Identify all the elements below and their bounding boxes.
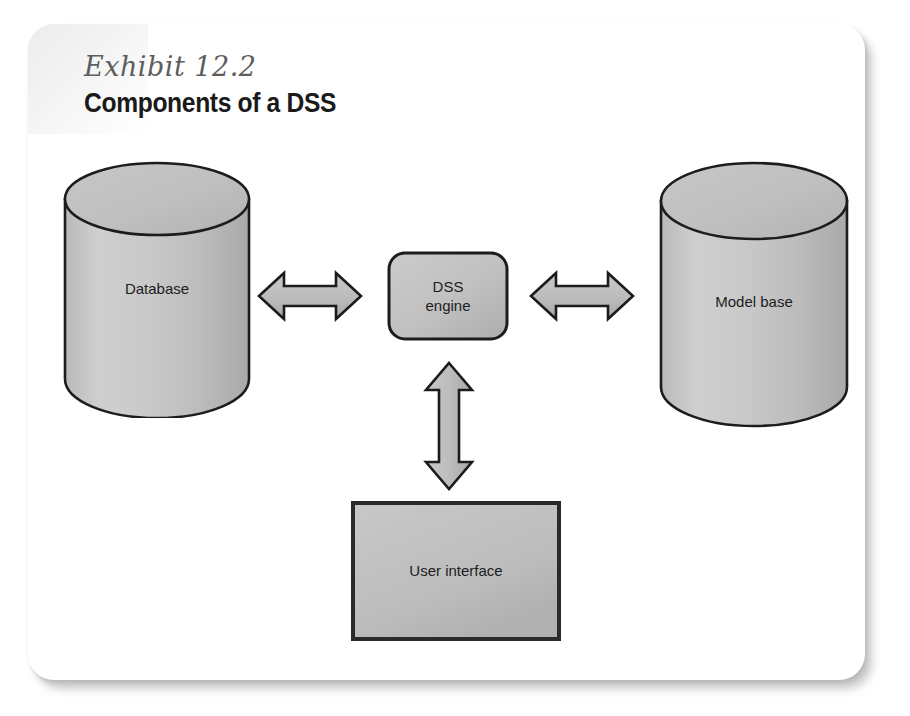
double-arrow-horizontal-icon [259, 273, 361, 319]
database-cylinder-top [65, 163, 249, 235]
exhibit-card: Exhibit 12.2 Components of a DSS [28, 24, 865, 680]
exhibit-heading: Exhibit 12.2 Components of a DSS [84, 52, 684, 119]
dss-engine-box-shape [389, 253, 507, 339]
double-arrow-vertical-icon [426, 363, 472, 489]
model-base-cylinder-top [661, 163, 847, 239]
node-model-base[interactable]: Model base [658, 160, 850, 428]
connector-engine-to-modelbase-icon[interactable] [528, 267, 636, 325]
node-dss-engine[interactable]: DSS engine [386, 250, 510, 342]
exhibit-number-label: Exhibit 12.2 [84, 52, 684, 82]
double-arrow-horizontal-icon [531, 273, 633, 319]
node-user-interface[interactable]: User interface [350, 500, 562, 642]
node-database[interactable]: Database [62, 160, 252, 418]
user-interface-box-shape [353, 503, 559, 639]
connector-database-to-engine-icon[interactable] [256, 267, 364, 325]
exhibit-title: Components of a DSS [84, 87, 612, 119]
connector-engine-to-ui-icon[interactable] [420, 360, 478, 492]
